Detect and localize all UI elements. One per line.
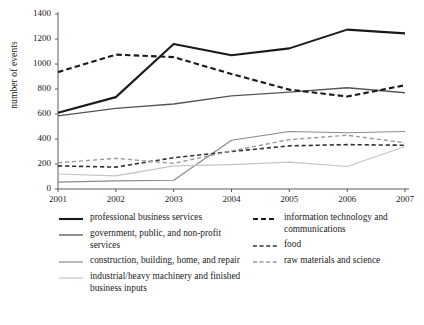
legend-line-icon — [252, 240, 278, 252]
x-tick-label: 2004 — [212, 194, 252, 204]
legend-line-icon — [252, 213, 278, 225]
series-line-5 — [58, 145, 405, 168]
series-line-2 — [58, 132, 405, 183]
series-line-1 — [58, 88, 405, 116]
x-tick-label: 2005 — [269, 194, 309, 204]
x-tick-label: 2002 — [96, 194, 136, 204]
legend-item-label: industrial/heavy machinery and finished … — [90, 271, 248, 294]
y-tick-label: 200 — [21, 158, 51, 168]
legend-item[interactable]: professional business services — [58, 212, 248, 224]
legend-item[interactable]: food — [252, 239, 424, 251]
y-tick-label: 800 — [21, 83, 51, 93]
series-line-4 — [58, 55, 405, 97]
legend-item-label: professional business services — [90, 212, 202, 224]
legend-line-icon — [252, 256, 278, 268]
legend-line-icon — [58, 256, 84, 268]
legend-item[interactable]: construction, building, home, and repair — [58, 255, 248, 267]
y-tick-label: 600 — [21, 108, 51, 118]
y-tick-label: 400 — [21, 133, 51, 143]
x-tick-label: 2003 — [154, 194, 194, 204]
x-tick-label: 2007 — [385, 194, 424, 204]
legend-item-label: information technology and communication… — [284, 212, 424, 235]
data-series-group — [58, 30, 405, 183]
plot-area: number of events 02004006008001000120014… — [0, 0, 424, 210]
legend-item-label: government, public, and non-profit servi… — [90, 228, 248, 251]
legend-line-icon — [58, 229, 84, 241]
x-tick-label: 2006 — [327, 194, 367, 204]
legend-item[interactable]: information technology and communication… — [252, 212, 424, 235]
legend-item[interactable]: industrial/heavy machinery and finished … — [58, 271, 248, 294]
legend-line-icon — [58, 213, 84, 225]
series-line-6 — [58, 135, 405, 163]
legend-column-right: information technology and communication… — [252, 212, 424, 271]
y-tick-label: 0 — [21, 183, 51, 193]
legend-column-left: professional business servicesgovernment… — [58, 212, 248, 298]
legend-item[interactable]: government, public, and non-profit servi… — [58, 228, 248, 251]
y-axis-title: number of events — [9, 15, 19, 135]
legend-item-label: raw materials and science — [284, 255, 380, 267]
legend-item[interactable]: raw materials and science — [252, 255, 424, 267]
chart-legend: professional business servicesgovernment… — [0, 212, 424, 325]
series-line-0 — [58, 30, 405, 113]
line-chart-svg — [0, 0, 424, 210]
y-tick-label: 1000 — [21, 58, 51, 68]
y-tick-label: 1200 — [21, 33, 51, 43]
y-tick-label: 1400 — [21, 8, 51, 18]
legend-line-icon — [58, 272, 84, 284]
legend-item-label: food — [284, 239, 301, 251]
x-tick-label: 2001 — [38, 194, 78, 204]
legend-item-label: construction, building, home, and repair — [90, 255, 240, 267]
chart-figure: number of events 02004006008001000120014… — [0, 0, 424, 325]
